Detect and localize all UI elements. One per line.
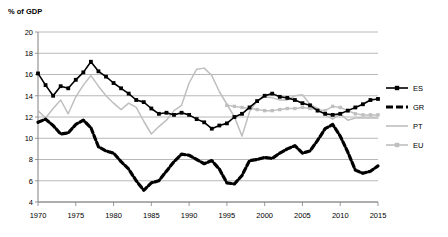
- data-point-marker: [165, 111, 169, 115]
- data-point-marker: [59, 84, 63, 88]
- x-tick-label: 1970: [30, 211, 47, 220]
- data-point-marker: [225, 104, 228, 107]
- data-point-marker: [240, 106, 243, 109]
- legend-label: GR: [413, 103, 425, 112]
- data-point-marker: [278, 108, 281, 111]
- data-point-marker: [301, 106, 304, 109]
- data-point-marker: [89, 60, 93, 64]
- y-tick-label: 6: [29, 177, 33, 186]
- data-point-marker: [248, 106, 252, 110]
- legend-label: ES: [413, 84, 423, 93]
- x-tick-label: 1995: [219, 211, 236, 220]
- data-point-marker: [278, 95, 282, 99]
- y-tick-label: 4: [29, 198, 33, 207]
- data-point-marker: [74, 78, 78, 82]
- data-point-marker: [369, 113, 372, 116]
- data-point-marker: [233, 115, 237, 119]
- data-point-marker: [240, 112, 244, 116]
- data-point-marker: [112, 81, 116, 85]
- y-tick-label: 12: [25, 113, 33, 122]
- data-point-marker: [149, 107, 153, 111]
- data-point-marker: [97, 69, 101, 73]
- data-point-marker: [285, 96, 289, 100]
- data-point-marker: [331, 105, 334, 108]
- data-point-marker: [66, 86, 70, 90]
- data-point-marker: [293, 107, 296, 110]
- data-point-marker: [195, 117, 199, 121]
- x-tick-label: 1990: [181, 211, 198, 220]
- y-tick-label: 8: [29, 155, 33, 164]
- data-point-marker: [51, 94, 55, 98]
- data-point-marker: [119, 86, 123, 90]
- data-point-marker: [361, 113, 364, 116]
- data-point-marker: [293, 98, 297, 102]
- data-point-marker: [354, 112, 357, 115]
- data-point-marker: [180, 111, 184, 115]
- x-tick-label: 2015: [370, 211, 387, 220]
- data-point-marker: [286, 107, 289, 110]
- y-tick-label: 10: [25, 134, 33, 143]
- y-tick-label: 20: [25, 28, 33, 37]
- data-point-marker: [255, 108, 258, 111]
- x-tick-label: 1985: [143, 211, 160, 220]
- data-point-marker: [44, 83, 48, 87]
- data-point-marker: [308, 107, 311, 110]
- data-point-marker: [376, 113, 379, 116]
- data-point-marker: [157, 112, 161, 116]
- data-point-marker: [369, 98, 373, 102]
- legend-label: EU: [413, 141, 423, 150]
- chart-background: [0, 0, 448, 237]
- data-point-marker: [263, 94, 267, 98]
- data-point-marker: [225, 121, 229, 125]
- x-tick-label: 2000: [256, 211, 273, 220]
- data-point-marker: [263, 109, 266, 112]
- chart-container: % of GDP 201816141210864 197019751980198…: [0, 0, 448, 237]
- data-point-marker: [308, 103, 312, 107]
- data-point-marker: [36, 72, 40, 76]
- data-point-marker: [338, 112, 342, 116]
- x-tick-label: 2005: [294, 211, 311, 220]
- data-point-marker: [270, 92, 274, 96]
- data-point-marker: [187, 113, 191, 117]
- data-point-marker: [202, 120, 206, 124]
- data-point-marker: [323, 109, 326, 112]
- data-point-marker: [134, 98, 138, 102]
- y-tick-label: 18: [25, 49, 33, 58]
- data-point-marker: [127, 92, 131, 96]
- data-point-marker: [172, 113, 176, 117]
- data-point-marker: [361, 102, 365, 106]
- data-point-marker: [339, 106, 342, 109]
- x-tick-label: 1980: [105, 211, 122, 220]
- y-tick-label: 16: [25, 70, 33, 79]
- x-tick-label: 1975: [67, 211, 84, 220]
- legend-label: PT: [413, 122, 423, 131]
- data-point-marker: [271, 109, 274, 112]
- legend-swatch-marker: [395, 86, 399, 90]
- data-point-marker: [104, 75, 108, 79]
- legend-swatch-marker: [395, 143, 399, 147]
- data-point-marker: [217, 124, 221, 128]
- y-tick-label: 14: [25, 92, 33, 101]
- data-point-marker: [301, 101, 305, 105]
- data-point-marker: [331, 113, 335, 117]
- data-point-marker: [353, 106, 357, 110]
- data-point-marker: [323, 112, 327, 116]
- data-point-marker: [376, 97, 380, 101]
- data-point-marker: [346, 109, 350, 113]
- data-point-marker: [233, 105, 236, 108]
- data-point-marker: [81, 70, 85, 74]
- data-point-marker: [210, 127, 214, 131]
- data-point-marker: [142, 100, 146, 104]
- y-axis-title: % of GDP: [8, 7, 42, 16]
- line-chart: % of GDP 201816141210864 197019751980198…: [0, 0, 448, 237]
- data-point-marker: [255, 99, 259, 103]
- data-point-marker: [316, 109, 320, 113]
- x-tick-label: 2010: [332, 211, 349, 220]
